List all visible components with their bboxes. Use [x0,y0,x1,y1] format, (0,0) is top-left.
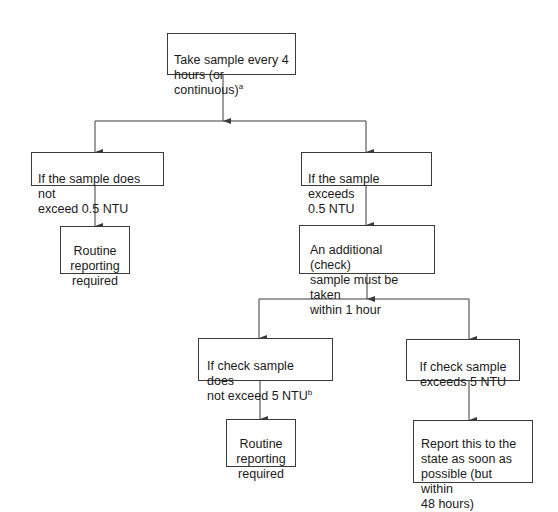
node-take-sample: Take sample every 4 hours (or continuous… [167,33,296,75]
footnote-b: b [308,388,312,397]
node-routine-1-text: Routine reporting required [70,244,119,288]
node-routine-reporting-2: Routine reporting required [226,419,296,467]
node-sample-exceeds-0-5: If the sample exceeds 0.5 NTU [301,152,432,186]
node-check-not-exceed-5: If check sample does not exceed 5 NTUb [198,338,333,381]
footnote-a: a [239,82,243,91]
node-routine-2-text: Routine reporting required [236,437,285,481]
node-check-exceeds-5: If check sample exceeds 5 NTU [406,339,520,381]
node-check-exceeds-text: If check sample exceeds 5 NTU [420,360,507,389]
node-additional-check-sample: An additional (check) sample must be tak… [299,225,435,274]
node-sample-not-exceed-0-5: If the sample does not exceed 0.5 NTU [31,152,164,186]
node-routine-reporting-1: Routine reporting required [60,226,130,274]
node-report-to-state: Report this to the state as soon as poss… [413,420,533,483]
